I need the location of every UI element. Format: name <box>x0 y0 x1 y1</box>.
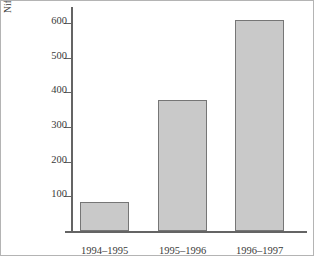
bar-chart-figure: Nifer o blant mewn ysgolion meithrin (mi… <box>0 0 314 256</box>
plot-area: 100200300400500600 1994–19951995–1996199… <box>71 7 307 233</box>
y-axis-title: Nifer o blant mewn ysgolion meithrin (mi… <box>1 1 33 233</box>
y-axis-tick-label: 500 <box>51 50 67 61</box>
x-axis-tick-label: 1996–1997 <box>219 245 300 256</box>
bar <box>80 202 129 231</box>
y-axis-line <box>71 7 73 233</box>
y-axis-tick-label: 300 <box>51 119 67 130</box>
x-axis-line <box>65 231 307 233</box>
y-axis-tick-label: 100 <box>51 188 67 199</box>
y-axis-title-units: (miloedd) <box>13 0 25 13</box>
y-axis-tick-label: 600 <box>51 15 67 26</box>
y-axis-title-line-2: (miloedd) <box>13 0 25 13</box>
y-axis-tick-label: 200 <box>51 154 67 165</box>
bar <box>158 100 207 231</box>
y-axis-tick-label: 400 <box>51 84 67 95</box>
x-axis-tick-label: 1995–1996 <box>142 245 223 256</box>
bar <box>235 20 284 231</box>
x-axis-tick-label: 1994–1995 <box>64 245 145 256</box>
